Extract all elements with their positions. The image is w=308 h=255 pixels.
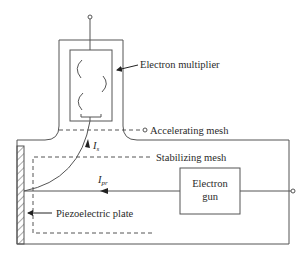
electron-gun-terminal-icon (291, 189, 295, 193)
dynode-icon (78, 93, 83, 110)
electron-multiplier-label: Electron multiplier (140, 59, 220, 70)
dynode-icon (77, 60, 82, 78)
top-terminal-icon (88, 15, 92, 19)
electron-gun-label-line1: Electron (192, 178, 228, 189)
piezoelectric-plate (17, 146, 24, 244)
secondary-current-path (24, 121, 90, 191)
secondary-current-arrow-icon (85, 139, 90, 148)
primary-current-arrow-icon (100, 188, 108, 194)
piezoelectric-plate-label: Piezoelectric plate (56, 208, 134, 219)
electron-gun-label-line2: gun (202, 191, 219, 202)
collector-icon (81, 114, 101, 117)
dynode-icon (102, 76, 106, 92)
accelerating-mesh-label: Accelerating mesh (150, 125, 229, 136)
accelerating-mesh-terminal-icon (143, 128, 147, 132)
secondary-current-label: Is (92, 140, 100, 153)
diagram-canvas: Is Accelerating mesh Electron multiplier… (0, 0, 308, 255)
stabilizing-mesh-label: Stabilizing mesh (156, 152, 227, 163)
stabilizing-mesh (33, 157, 152, 233)
multiplier-pointer (117, 65, 138, 70)
primary-current-label: Ipr (97, 174, 108, 187)
